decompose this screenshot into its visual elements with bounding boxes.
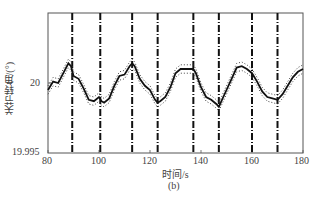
chart-plot [0,0,320,201]
x-tick-80: 80 [42,155,52,166]
plot-frame [48,13,303,153]
joint-angle-line [48,63,303,106]
y-tick-20: 20 [30,77,40,88]
x-tick-180: 180 [294,155,309,166]
x-axis-label: 时间/s [162,166,189,181]
y-tick-19995: 19.995 [12,146,40,157]
x-tick-140: 140 [193,155,208,166]
x-tick-120: 120 [142,155,157,166]
x-tick-100: 100 [91,155,106,166]
figure-caption: (b) [168,180,180,191]
y-axis-label: 关节转角/(°) [2,62,16,115]
x-tick-160: 160 [244,155,259,166]
